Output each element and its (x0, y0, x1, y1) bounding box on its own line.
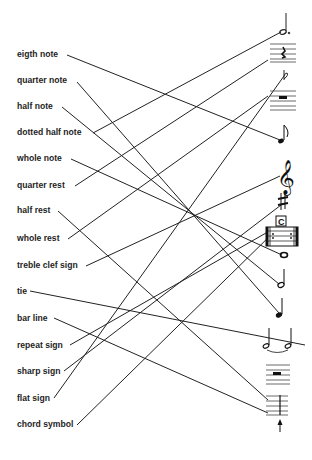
connection-line (54, 318, 268, 413)
flat-symbol[interactable] (284, 70, 288, 80)
bar-line-symbol[interactable] (266, 395, 288, 432)
connection-line (64, 205, 281, 371)
connection-line (75, 60, 268, 186)
connection-line (77, 230, 276, 425)
connection-line (70, 233, 266, 345)
connection-line (71, 159, 282, 255)
quarter-rest-symbol[interactable] (270, 44, 296, 62)
connection-lines (30, 32, 305, 425)
connection-line (77, 82, 279, 313)
half-rest-symbol[interactable] (266, 365, 290, 384)
connection-line (86, 176, 280, 266)
tie-symbol[interactable] (262, 328, 291, 353)
repeat-sign-symbol[interactable] (266, 227, 298, 246)
svg-text:𝄞: 𝄞 (277, 159, 295, 196)
whole-rest-symbol[interactable] (270, 91, 296, 110)
treble-clef-symbol[interactable]: 𝄞 (277, 159, 295, 196)
sharp-symbol[interactable] (278, 192, 288, 210)
quarter-note-symbol[interactable] (275, 298, 283, 319)
connection-line (68, 96, 268, 239)
connection-line (67, 55, 280, 140)
eighth-note-symbol[interactable] (277, 125, 288, 144)
worksheet-canvas: 𝄞 C (0, 0, 312, 460)
chord-symbol-C[interactable]: C (276, 216, 286, 227)
connection-line (93, 32, 281, 133)
chord-letter: C (278, 217, 285, 227)
connection-line (62, 107, 279, 284)
half-note-symbol[interactable] (277, 269, 285, 288)
